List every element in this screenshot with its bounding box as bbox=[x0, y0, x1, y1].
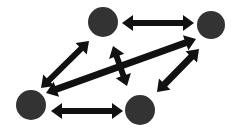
bottom-middle-node bbox=[125, 95, 155, 125]
diagram-canvas bbox=[0, 0, 241, 133]
top-right-node bbox=[197, 11, 225, 39]
bottom-left-node bbox=[16, 90, 46, 120]
node-link-diagram bbox=[0, 0, 241, 133]
top-left-node bbox=[88, 7, 118, 37]
